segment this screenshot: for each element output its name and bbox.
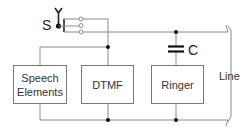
block-dtmf: DTMF [82,66,134,104]
switch-label: S [42,17,51,33]
contact-terminal-3 [79,30,83,34]
wire-line-bottom [40,104,228,126]
speech-label-line2: Elements [17,86,63,98]
junction-dot-upper-left [106,45,110,49]
contact-terminal-1 [79,17,83,21]
junction-dot-bottom-dtmf [106,118,110,122]
hook-switch: S [42,8,83,34]
ringer-label: Ringer [161,79,194,91]
dtmf-label: DTMF [92,79,123,91]
block-speech-elements: Speech Elements [14,66,67,104]
capacitor: C [168,42,198,58]
wire-to-speech [40,47,108,65]
wire-switch-to-dtmf [83,19,108,65]
switch-actuator-icon [55,8,62,26]
contact-terminal-2 [79,24,83,28]
wire-line-top [83,25,228,32]
telephone-circuit-diagram: S C [0,0,250,132]
block-ringer: Ringer [152,66,204,104]
line-label: Line [219,70,240,82]
junction-dot-cap-top [174,30,178,34]
speech-label-line1: Speech [21,72,58,84]
capacitor-label: C [188,42,198,58]
junction-dot-bottom-ringer [174,118,178,122]
